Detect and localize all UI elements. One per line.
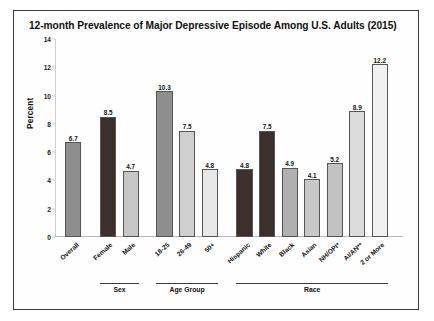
bar: 7.5 bbox=[179, 131, 195, 237]
bar-value-label: 8.5 bbox=[104, 109, 113, 116]
bar: 4.7 bbox=[123, 171, 139, 237]
chart-figure: 12-month Prevalence of Major Depressive … bbox=[13, 10, 419, 310]
bar: 4.8 bbox=[202, 169, 218, 237]
bar-value-label: 12.2 bbox=[374, 57, 386, 64]
group-bracket-line bbox=[156, 283, 217, 284]
group-bracket-label: Age Group bbox=[156, 286, 217, 293]
x-category-label: Asian bbox=[300, 241, 318, 258]
x-category-label: 50+ bbox=[203, 241, 216, 254]
group-bracket-label: Sex bbox=[100, 286, 139, 293]
x-category-label: NH/OPI* bbox=[318, 241, 341, 263]
y-tick-mark bbox=[52, 95, 55, 96]
group-bracket-line bbox=[236, 283, 387, 284]
bar: 10.3 bbox=[156, 91, 172, 237]
bar-value-label: 6.7 bbox=[69, 135, 78, 142]
x-category-label: Overall bbox=[58, 241, 79, 261]
y-tick-label: 2 bbox=[47, 205, 51, 212]
y-tick-mark bbox=[52, 67, 55, 68]
bar: 6.7 bbox=[65, 142, 81, 237]
y-tick-mark bbox=[52, 208, 55, 209]
x-category-label: 26-49 bbox=[176, 241, 193, 257]
bar: 12.2 bbox=[372, 64, 388, 237]
y-tick-label: 10 bbox=[44, 92, 51, 99]
bar: 8.9 bbox=[349, 111, 365, 237]
bar: 5.2 bbox=[327, 163, 343, 237]
y-tick-mark bbox=[52, 123, 55, 124]
y-tick-label: 0 bbox=[47, 234, 51, 241]
bar-value-label: 4.1 bbox=[308, 172, 317, 179]
y-tick-mark bbox=[52, 237, 55, 238]
bar-value-label: 4.8 bbox=[205, 162, 214, 169]
bar-value-label: 10.3 bbox=[158, 84, 170, 91]
x-category-label: Black bbox=[277, 241, 295, 258]
category-labels: OverallFemaleMale18-2526-4950+HispanicWh… bbox=[55, 239, 401, 285]
x-category-label: 18-25 bbox=[153, 241, 170, 257]
bar-value-label: 4.8 bbox=[240, 162, 249, 169]
group-bracket-line bbox=[100, 283, 139, 284]
y-axis-line bbox=[55, 39, 56, 237]
bar: 4.8 bbox=[236, 169, 252, 237]
bar-value-label: 7.5 bbox=[263, 123, 272, 130]
bar: 4.9 bbox=[282, 168, 298, 237]
x-category-label: White bbox=[255, 241, 273, 258]
bar-value-label: 4.9 bbox=[285, 160, 294, 167]
group-bracket-label: Race bbox=[236, 286, 387, 293]
x-category-label: Male bbox=[121, 241, 137, 256]
bar: 8.5 bbox=[100, 117, 116, 237]
bar-value-label: 5.2 bbox=[330, 156, 339, 163]
y-tick-label: 6 bbox=[47, 149, 51, 156]
y-tick-mark bbox=[52, 39, 55, 40]
x-category-label: Hispanic bbox=[226, 241, 251, 265]
bar-value-label: 4.7 bbox=[126, 163, 135, 170]
group-brackets: SexAge GroupRace bbox=[55, 283, 401, 305]
bar-value-label: 7.5 bbox=[183, 123, 192, 130]
y-tick-label: 14 bbox=[44, 36, 51, 43]
y-tick-label: 8 bbox=[47, 120, 51, 127]
bar: 4.1 bbox=[304, 179, 320, 237]
y-axis-label: Percent bbox=[26, 98, 35, 129]
chart-title: 12-month Prevalence of Major Depressive … bbox=[29, 20, 405, 31]
y-tick-mark bbox=[52, 180, 55, 181]
y-tick-mark bbox=[52, 152, 55, 153]
plot-area: 02468101214 6.78.54.710.37.54.84.87.54.9… bbox=[55, 39, 401, 237]
bar-value-label: 8.9 bbox=[353, 104, 362, 111]
y-tick-label: 12 bbox=[44, 64, 51, 71]
bar: 7.5 bbox=[259, 131, 275, 237]
x-category-label: Female bbox=[92, 241, 114, 261]
y-tick-label: 4 bbox=[47, 177, 51, 184]
